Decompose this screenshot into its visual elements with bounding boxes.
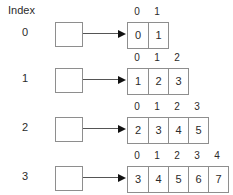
column-headers-1: 0 1 2 (127, 52, 187, 64)
array-row-2: 2 0 1 2 3 2 3 4 5 (0, 95, 233, 143)
column-header: 1 (147, 101, 167, 113)
array-cells-2: 2 3 4 5 (127, 117, 209, 144)
row-index-label-2: 2 (14, 121, 36, 134)
array-row-0: 0 0 1 0 1 (0, 0, 233, 48)
array-cell[interactable]: 2 (128, 118, 148, 143)
array-cells-1: 1 2 3 (127, 68, 189, 95)
arrow-head-icon (118, 174, 126, 182)
column-header: 4 (207, 150, 227, 162)
array-cell[interactable]: 2 (148, 69, 168, 94)
array-cell[interactable]: 3 (168, 69, 188, 94)
arrow-line-icon (83, 177, 119, 178)
reference-arrow-1 (83, 79, 127, 81)
array-cell[interactable]: 3 (128, 167, 148, 192)
arrow-line-icon (83, 33, 119, 34)
reference-box-3[interactable] (55, 166, 83, 191)
column-headers-2: 0 1 2 3 (127, 101, 207, 113)
column-headers-3: 0 1 2 3 4 (127, 150, 227, 162)
array-row-1: 1 0 1 2 1 2 3 (0, 46, 233, 94)
arrow-head-icon (118, 30, 126, 38)
column-header: 0 (127, 101, 147, 113)
array-cell[interactable]: 1 (148, 23, 168, 48)
reference-arrow-3 (83, 177, 127, 179)
column-header: 0 (127, 52, 147, 64)
array-cell[interactable]: 1 (128, 69, 148, 94)
reference-arrow-2 (83, 128, 127, 130)
array-row-3: 3 0 1 2 3 4 3 4 5 6 7 (0, 144, 233, 192)
column-header: 1 (147, 52, 167, 64)
arrow-line-icon (83, 128, 119, 129)
column-header: 1 (147, 6, 167, 18)
array-cell[interactable]: 7 (208, 167, 228, 192)
column-header: 2 (167, 101, 187, 113)
array-cell[interactable]: 4 (168, 118, 188, 143)
arrow-line-icon (83, 79, 119, 80)
array-cell[interactable]: 4 (148, 167, 168, 192)
array-cell[interactable]: 6 (188, 167, 208, 192)
row-index-label-1: 1 (14, 72, 36, 85)
column-header: 0 (127, 6, 147, 18)
array-cell[interactable]: 5 (188, 118, 208, 143)
reference-box-2[interactable] (55, 117, 83, 142)
column-header: 3 (187, 150, 207, 162)
reference-box-1[interactable] (55, 68, 83, 93)
column-header: 2 (167, 150, 187, 162)
array-cell[interactable]: 0 (128, 23, 148, 48)
column-headers-0: 0 1 (127, 6, 167, 18)
array-cells-0: 0 1 (127, 22, 169, 49)
row-index-label-0: 0 (14, 26, 36, 39)
jagged-array-diagram: Index 0 0 1 0 1 1 0 1 2 1 2 (0, 0, 233, 195)
reference-box-0[interactable] (55, 22, 83, 47)
array-cell[interactable]: 3 (148, 118, 168, 143)
column-header: 3 (187, 101, 207, 113)
column-header: 2 (167, 52, 187, 64)
reference-arrow-0 (83, 33, 127, 35)
column-header: 0 (127, 150, 147, 162)
array-cells-3: 3 4 5 6 7 (127, 166, 229, 193)
array-cell[interactable]: 5 (168, 167, 188, 192)
row-index-label-3: 3 (14, 170, 36, 183)
arrow-head-icon (118, 125, 126, 133)
arrow-head-icon (118, 76, 126, 84)
column-header: 1 (147, 150, 167, 162)
